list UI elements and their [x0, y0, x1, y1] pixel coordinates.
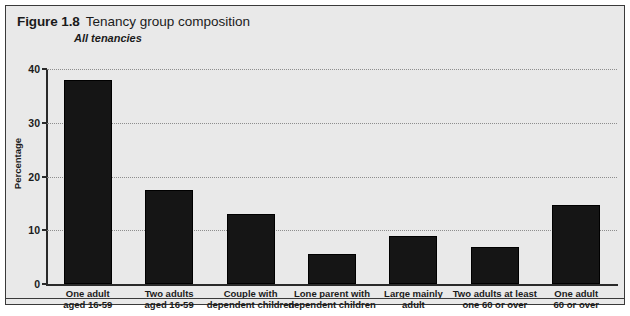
x-axis-category-label: One adult60 or over	[528, 288, 625, 310]
figure-heading: Figure 1.8Tenancy group composition	[17, 14, 577, 30]
y-axis-title: Percentage	[12, 124, 23, 204]
y-axis-tick-mark	[42, 176, 47, 178]
bottom-divider	[6, 298, 624, 299]
y-axis-tick-mark	[42, 229, 47, 231]
gridline	[47, 123, 617, 124]
y-axis-tick-label: 10	[14, 225, 40, 235]
bar	[389, 236, 437, 284]
y-axis-tick-mark	[42, 122, 47, 124]
page-title: Tenancy group composition	[86, 14, 250, 29]
bar	[308, 254, 356, 284]
bar	[227, 214, 275, 284]
x-axis-line	[46, 284, 618, 286]
bar	[471, 247, 519, 284]
figure-title-block: Figure 1.8Tenancy group composition All …	[17, 14, 577, 45]
x-axis-label-line: 60 or over	[528, 299, 625, 310]
gridline	[47, 230, 617, 231]
y-axis-tick-mark	[42, 68, 47, 70]
figure-subtitle: All tenancies	[74, 31, 577, 45]
figure-panel: Figure 1.8Tenancy group composition All …	[5, 5, 625, 305]
plot-area	[47, 69, 617, 284]
bar	[145, 190, 193, 284]
x-axis-category-labels: One adultaged 16-59Two adultsaged 16-59C…	[47, 288, 619, 314]
bar	[64, 80, 112, 284]
bar	[552, 205, 600, 284]
gridline	[47, 177, 617, 178]
y-axis-tick-label: 40	[14, 64, 40, 74]
y-axis-tick-mark	[42, 283, 47, 285]
gridline	[47, 69, 617, 70]
y-axis-tick-label: 0	[14, 279, 40, 289]
